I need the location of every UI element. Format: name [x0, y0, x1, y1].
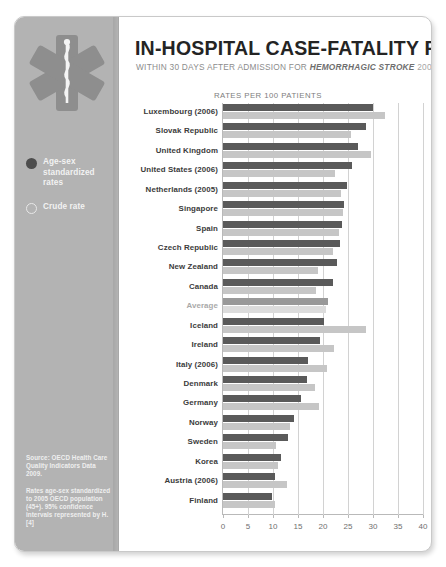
bar-row: Germany — [223, 395, 422, 414]
x-tick-label: 40 — [419, 522, 428, 531]
axis-title: RATES PER 100 PATIENTS — [214, 91, 322, 100]
filled-dot-icon — [26, 158, 37, 169]
x-tick-mark — [423, 515, 424, 518]
bar-row: Czech Republic — [223, 240, 422, 259]
legend-item-crude[interactable]: Crude rate — [26, 202, 114, 214]
bar-standardized — [223, 337, 320, 344]
bar-standardized — [223, 259, 337, 266]
bar-crude — [223, 326, 366, 333]
source-methodology: Rates age-sex standardized to 2005 OECD … — [26, 487, 112, 528]
bar-row: United States (2006) — [223, 162, 422, 181]
page-subtitle: WITHIN 30 DAYS AFTER ADMISSION FOR HEMOR… — [136, 62, 432, 72]
category-label: Spain — [196, 224, 218, 233]
x-tick-label: 35 — [394, 522, 403, 531]
bar-standardized — [223, 104, 373, 111]
bar-row: Slovak Republic — [223, 123, 422, 142]
x-tick-mark — [323, 515, 324, 518]
bar-row: Singapore — [223, 201, 422, 220]
bar-crude — [223, 170, 335, 177]
sidebar: Age-sex standardized rates Crude rate So… — [15, 17, 119, 551]
category-label: Denmark — [184, 379, 218, 388]
x-tick-label: 25 — [344, 522, 353, 531]
bar-standardized — [223, 376, 307, 383]
x-tick-mark — [273, 515, 274, 518]
bar-row: United Kingdom — [223, 143, 422, 162]
bar-row: Finland — [223, 493, 422, 512]
bar-row: Iceland — [223, 318, 422, 337]
legend-item-label: Age-sex standardized rates — [43, 157, 114, 189]
bar-crude — [223, 267, 318, 274]
x-tick-mark — [398, 515, 399, 518]
legend-item-standardized[interactable]: Age-sex standardized rates — [26, 157, 114, 189]
bar-crude — [223, 112, 385, 119]
bar-crude — [223, 248, 333, 255]
bar-crude — [223, 229, 339, 236]
star-of-life-icon — [23, 27, 111, 119]
bar-crude — [223, 131, 351, 138]
bar-standardized — [223, 123, 366, 130]
gridline — [423, 103, 424, 515]
bar-standardized — [223, 143, 358, 150]
bar-row: Canada — [223, 279, 422, 298]
subtitle-year: 2007 — [415, 62, 432, 72]
category-label: Sweden — [188, 437, 218, 446]
subtitle-prefix: WITHIN 30 DAYS AFTER ADMISSION FOR — [136, 62, 310, 72]
x-tick-label: 10 — [269, 522, 278, 531]
category-label: Netherlands (2005) — [146, 185, 218, 194]
bar-crude — [223, 442, 276, 449]
bar-row: Korea — [223, 454, 422, 473]
bar-crude — [223, 306, 326, 313]
category-label: Czech Republic — [158, 243, 218, 252]
bar-row: Ireland — [223, 337, 422, 356]
bar-crude — [223, 287, 316, 294]
x-tick-label: 5 — [246, 522, 250, 531]
bar-chart: 0510152025303540Luxembourg (2006)Slovak … — [119, 103, 432, 533]
hollow-dot-icon — [26, 203, 37, 214]
category-label: Korea — [195, 457, 218, 466]
bar-crude — [223, 423, 290, 430]
bar-crude — [223, 403, 319, 410]
bar-row: Netherlands (2005) — [223, 182, 422, 201]
bar-standardized — [223, 182, 347, 189]
infographic-poster: Age-sex standardized rates Crude rate So… — [14, 16, 432, 552]
bar-crude — [223, 209, 343, 216]
bar-standardized — [223, 221, 342, 228]
bar-crude — [223, 501, 275, 508]
bar-row: Norway — [223, 415, 422, 434]
bar-crude — [223, 481, 287, 488]
subtitle-emphasis: HEMORRHAGIC STROKE — [310, 62, 415, 72]
category-label: Average — [186, 301, 218, 310]
category-label: United Kingdom — [156, 146, 218, 155]
bar-row: Sweden — [223, 434, 422, 453]
legend: Age-sex standardized rates Crude rate — [26, 157, 114, 227]
category-label: Finland — [189, 496, 218, 505]
bar-standardized — [223, 279, 333, 286]
bar-row: New Zealand — [223, 259, 422, 278]
category-label: Italy (2006) — [176, 360, 218, 369]
category-label: Canada — [189, 282, 218, 291]
bar-standardized — [223, 357, 308, 364]
category-label: Ireland — [191, 340, 218, 349]
plot-area: 0510152025303540Luxembourg (2006)Slovak … — [222, 103, 422, 515]
category-label: Singapore — [179, 204, 218, 213]
category-label: Iceland — [190, 321, 218, 330]
x-tick-mark — [248, 515, 249, 518]
bar-standardized — [223, 493, 272, 500]
bar-crude — [223, 384, 315, 391]
content-area: IN-HOSPITAL CASE-FATALITY RATES WITHIN 3… — [119, 17, 431, 551]
bar-standardized — [223, 201, 344, 208]
bar-crude — [223, 151, 371, 158]
legend-item-label: Crude rate — [43, 202, 85, 213]
bar-row: Luxembourg (2006) — [223, 104, 422, 123]
x-tick-label: 15 — [294, 522, 303, 531]
x-tick-label: 30 — [369, 522, 378, 531]
bar-standardized — [223, 240, 340, 247]
bar-standardized — [223, 318, 324, 325]
category-label: Luxembourg (2006) — [144, 107, 218, 116]
x-tick-mark — [348, 515, 349, 518]
bar-row: Average — [223, 298, 422, 317]
x-tick-label: 20 — [319, 522, 328, 531]
bar-crude — [223, 365, 327, 372]
source-notes: Source: OECD Health Care Quality Indicat… — [26, 454, 112, 536]
category-label: Norway — [189, 418, 218, 427]
